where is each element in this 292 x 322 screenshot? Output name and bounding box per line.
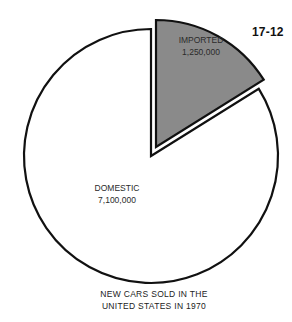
slice-label-imported: IMPORTED 1,250,000 <box>179 34 224 58</box>
domestic-value: 7,100,000 <box>95 194 140 206</box>
caption-line-2: UNITED STATES IN 1970 <box>100 300 207 312</box>
chart-caption: NEW CARS SOLD IN THE UNITED STATES IN 19… <box>100 288 207 312</box>
caption-line-1: NEW CARS SOLD IN THE <box>100 288 207 300</box>
imported-label: IMPORTED <box>179 34 224 46</box>
slice-label-domestic: DOMESTIC 7,100,000 <box>95 182 140 206</box>
domestic-label: DOMESTIC <box>95 182 140 194</box>
imported-value: 1,250,000 <box>179 46 224 58</box>
figure-number: 17-12 <box>252 25 284 39</box>
pie-chart <box>0 0 292 322</box>
